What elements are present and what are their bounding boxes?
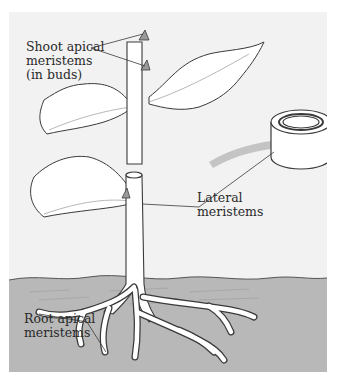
label-root-apical-meristems: Root apical meristems xyxy=(24,312,95,340)
upper-left-leaf xyxy=(40,84,131,134)
label-lateral-meristems: Lateral meristems xyxy=(197,191,263,219)
upper-right-leaf xyxy=(149,42,264,109)
upper-stem xyxy=(127,42,142,164)
lower-left-leaf xyxy=(31,156,137,217)
stem-cut-top xyxy=(126,172,142,178)
stem-cross-section xyxy=(271,110,327,169)
label-shoot-apical-meristems: Shoot apical meristems (in buds) xyxy=(26,40,105,82)
diagram-panel: Shoot apical meristems (in buds) Lateral… xyxy=(9,12,327,372)
